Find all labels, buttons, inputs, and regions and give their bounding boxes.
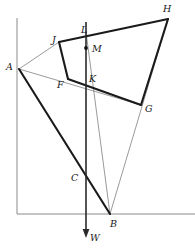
figure-canvas	[0, 0, 195, 249]
label-J: J	[52, 35, 56, 45]
weight-arrow-head	[83, 229, 90, 238]
point-M-dot	[84, 46, 88, 50]
segment-B-L	[86, 32, 110, 214]
weight-arrow	[83, 22, 90, 238]
label-L: L	[81, 25, 87, 35]
segment-J-H	[59, 19, 168, 42]
label-A: A	[6, 62, 13, 72]
segment-G-F	[68, 79, 141, 105]
label-C: C	[71, 173, 78, 183]
geometry-figure: ABCFGHJKLMW	[0, 0, 195, 249]
label-W: W	[90, 233, 100, 243]
label-B: B	[110, 219, 117, 229]
label-M: M	[92, 44, 102, 54]
label-G: G	[145, 104, 153, 114]
segment-A-B	[19, 69, 110, 214]
segment-F-J	[59, 42, 68, 79]
segment-H-G	[141, 19, 168, 105]
label-F: F	[57, 80, 64, 90]
label-H: H	[163, 4, 171, 14]
label-K: K	[89, 74, 96, 84]
segment-A-J	[19, 42, 59, 69]
